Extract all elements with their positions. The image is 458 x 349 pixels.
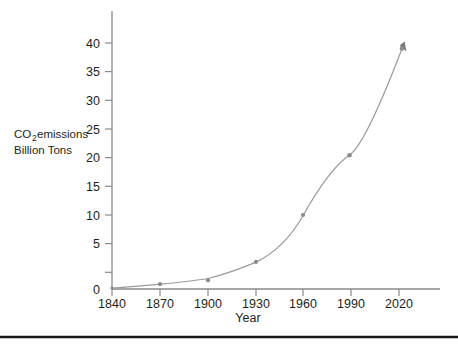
x-tick-label-1840: 1840 — [98, 297, 126, 311]
x-tick-label-1930: 1930 — [242, 297, 270, 311]
y-axis-label-line1-rest: emissions — [37, 128, 88, 140]
data-point-1930 — [254, 260, 258, 264]
y-axis-label: CO 2 emissions Billion Tons — [14, 128, 88, 156]
data-point-1960 — [301, 213, 305, 217]
data-point-1840 — [110, 286, 113, 289]
data-line — [112, 46, 403, 288]
x-axis-tick-labels: 1840 1870 1900 1930 1960 1990 2020 — [98, 297, 413, 311]
x-tick-label-1900: 1900 — [194, 297, 222, 311]
data-point-1990 — [347, 153, 352, 158]
x-tick-label-2020: 2020 — [385, 297, 413, 311]
y-tick-label-25: 25 — [86, 123, 100, 137]
x-tick-label-1960: 1960 — [289, 297, 317, 311]
y-tick-label-15: 15 — [86, 180, 100, 194]
data-point-1870 — [158, 282, 162, 286]
y-tick-label-40: 40 — [86, 37, 100, 51]
x-tick-label-1990: 1990 — [337, 297, 365, 311]
y-tick-label-10: 10 — [86, 209, 100, 223]
data-series-co2-emissions — [112, 42, 406, 289]
x-tick-label-1870: 1870 — [146, 297, 174, 311]
y-axis-label-line2: Billion Tons — [14, 144, 72, 156]
y-axis-label-line1-prefix: CO — [14, 128, 31, 140]
data-point-2020 — [400, 46, 405, 51]
y-axis-ticks — [105, 43, 112, 272]
x-axis-title: Year — [235, 311, 260, 325]
y-tick-label-0: 0 — [93, 283, 100, 297]
y-tick-label-5: 5 — [93, 237, 100, 251]
y-tick-label-30: 30 — [86, 94, 100, 108]
data-point-markers — [110, 46, 404, 289]
figure-container: CO 2 emissions Billion Tons 40 35 30 25 — [0, 0, 458, 349]
co2-emissions-line-chart: CO 2 emissions Billion Tons 40 35 30 25 — [0, 0, 458, 349]
y-tick-label-35: 35 — [86, 65, 100, 79]
y-axis-tick-labels: 40 35 30 25 20 15 10 5 0 — [86, 37, 100, 297]
x-axis-ticks — [112, 289, 399, 296]
data-point-1900 — [206, 278, 210, 282]
y-tick-label-20: 20 — [86, 151, 100, 165]
